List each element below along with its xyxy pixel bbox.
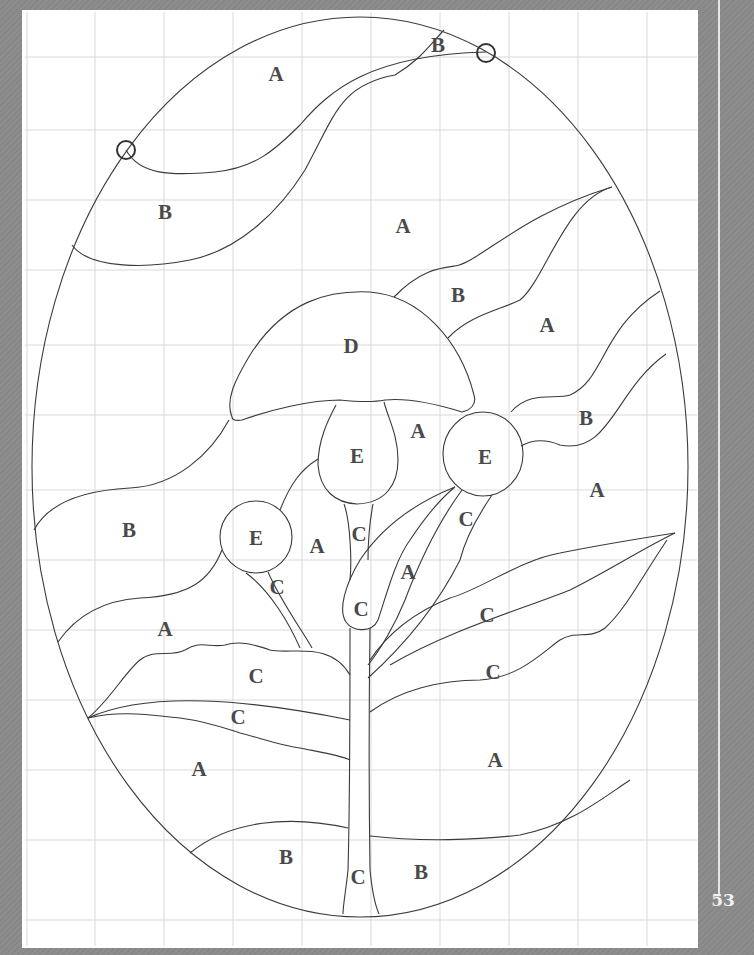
piece-label-c: C: [269, 577, 284, 598]
pattern-drawing: [0, 0, 754, 955]
piece-label-a: A: [309, 536, 324, 557]
piece-label-a: A: [157, 619, 172, 640]
piece-label-c: C: [458, 509, 473, 530]
piece-label-a: A: [395, 216, 410, 237]
piece-label-e: E: [350, 446, 364, 467]
piece-label-c: C: [479, 605, 494, 626]
piece-label-a: A: [539, 315, 554, 336]
piece-label-e: E: [249, 528, 263, 549]
piece-label-c: C: [353, 599, 368, 620]
piece-label-c: C: [351, 524, 366, 545]
piece-label-a: A: [268, 64, 283, 85]
piece-label-c: C: [248, 666, 263, 687]
piece-label-b: B: [279, 847, 293, 868]
registration-mark-top: [477, 44, 495, 62]
piece-label-b: B: [414, 862, 428, 883]
piece-label-e: E: [478, 447, 492, 468]
piece-label-b: B: [451, 285, 465, 306]
piece-label-a: A: [191, 759, 206, 780]
piece-label-c: C: [230, 707, 245, 728]
piece-label-a: A: [410, 421, 425, 442]
piece-label-b: B: [122, 520, 136, 541]
piece-label-c: C: [485, 662, 500, 683]
piece-label-a: A: [400, 562, 415, 583]
piece-label-b: B: [579, 408, 593, 429]
piece-label-c: C: [350, 867, 365, 888]
piece-label-d: D: [343, 336, 358, 357]
piece-label-b: B: [158, 202, 172, 223]
page-number: 53: [703, 890, 743, 910]
piece-label-a: A: [589, 480, 604, 501]
piece-label-b: B: [431, 35, 445, 56]
piece-label-a: A: [487, 750, 502, 771]
